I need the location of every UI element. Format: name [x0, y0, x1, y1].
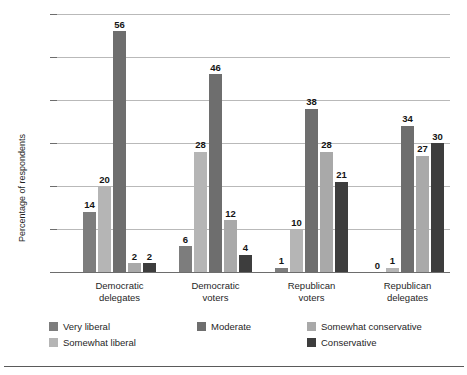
bar-value-label: 46: [210, 63, 221, 73]
bar[interactable]: 28: [320, 152, 333, 272]
legend-item[interactable]: Somewhat liberal: [49, 338, 136, 348]
legend-label: Moderate: [211, 322, 251, 332]
bar-value-label: 0: [375, 261, 380, 271]
y-tick-mark: [50, 57, 57, 58]
legend-swatch: [307, 338, 316, 347]
bar-value-label: 56: [114, 20, 125, 30]
bar-value-label: 2: [147, 252, 152, 262]
bar-value-label: 20: [99, 175, 110, 185]
bar-value-label: 1: [390, 256, 395, 266]
bar[interactable]: 12: [224, 220, 237, 272]
bar-group: 110382821Republicanvoters: [275, 14, 348, 272]
bar-value-label: 2: [132, 252, 137, 262]
y-axis-title: Percentage of respondents: [17, 133, 27, 241]
x-axis-category-label: Republicandelegates: [384, 280, 432, 304]
y-tick-mark: [50, 14, 57, 15]
bar[interactable]: 28: [194, 152, 207, 272]
axis-baseline: [57, 272, 450, 273]
bottom-divider: [4, 366, 464, 367]
bar[interactable]: 14: [83, 212, 96, 272]
bar[interactable]: 2: [143, 263, 156, 272]
legend-item[interactable]: Somewhat conservative: [307, 322, 422, 332]
bar-group-bars: 62846124: [179, 14, 252, 272]
bar-value-label: 34: [402, 114, 413, 124]
bar[interactable]: 27: [416, 156, 429, 272]
bar-value-label: 28: [195, 140, 206, 150]
legend-swatch: [307, 322, 316, 331]
bar[interactable]: 46: [209, 74, 222, 272]
y-tick-mark: [50, 143, 57, 144]
bar[interactable]: 6: [179, 246, 192, 272]
bar[interactable]: 1: [275, 268, 288, 272]
bar-group-bars: 110382821: [275, 14, 348, 272]
bar-group-bars: 01342730: [371, 14, 444, 272]
bar[interactable]: 34: [401, 126, 414, 272]
bar-value-label: 12: [225, 209, 236, 219]
bar-value-label: 38: [306, 97, 317, 107]
bar[interactable]: 30: [431, 143, 444, 272]
bar[interactable]: 21: [335, 182, 348, 272]
plot-area: 010203040506014205622Democraticdelegates…: [57, 14, 450, 272]
bar-value-label: 27: [417, 144, 428, 154]
legend-swatch: [197, 322, 206, 331]
y-tick-mark: [50, 100, 57, 101]
bar-value-label: 6: [183, 235, 188, 245]
x-axis-category-label: Democraticdelegates: [95, 280, 143, 304]
chart-figure: 010203040506014205622Democraticdelegates…: [0, 0, 467, 375]
x-axis-category-label: Republicanvoters: [288, 280, 336, 304]
bar-group-bars: 14205622: [83, 14, 156, 272]
bar-value-label: 14: [84, 200, 95, 210]
x-axis-category-label: Democraticvoters: [191, 280, 239, 304]
bar[interactable]: 1: [386, 268, 399, 272]
bar[interactable]: 20: [98, 186, 111, 272]
legend-swatch: [49, 322, 58, 331]
legend-swatch: [49, 338, 58, 347]
y-tick-mark: [50, 186, 57, 187]
bar[interactable]: 4: [239, 255, 252, 272]
bar-value-label: 10: [291, 218, 302, 228]
legend-label: Somewhat liberal: [63, 338, 136, 348]
bar-group: 62846124Democraticvoters: [179, 14, 252, 272]
legend-item[interactable]: Very liberal: [49, 322, 110, 332]
legend-label: Conservative: [321, 338, 376, 348]
bar-group: 14205622Democraticdelegates: [83, 14, 156, 272]
bar[interactable]: 2: [128, 263, 141, 272]
legend-label: Somewhat conservative: [321, 322, 422, 332]
bar-group: 01342730Republicandelegates: [371, 14, 444, 272]
y-tick-mark: [50, 272, 57, 273]
legend-item[interactable]: Conservative: [307, 338, 376, 348]
bar[interactable]: 10: [290, 229, 303, 272]
bar-value-label: 4: [243, 243, 248, 253]
bar-value-label: 28: [321, 140, 332, 150]
bar-value-label: 30: [432, 132, 443, 142]
legend-label: Very liberal: [63, 322, 110, 332]
bar-value-label: 1: [279, 256, 284, 266]
chart-legend: Very liberalSomewhat liberalModerateSome…: [49, 322, 459, 354]
bar-value-label: 21: [336, 170, 347, 180]
bar[interactable]: 56: [113, 31, 126, 272]
legend-item[interactable]: Moderate: [197, 322, 251, 332]
y-tick-mark: [50, 229, 57, 230]
bar[interactable]: 38: [305, 109, 318, 272]
